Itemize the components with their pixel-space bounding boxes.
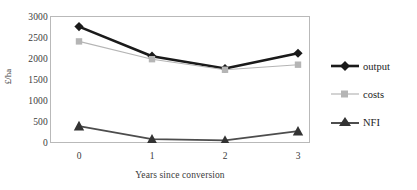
y-tick-label: 3000 xyxy=(2,13,48,23)
y-axis-title: £/ha xyxy=(4,57,13,97)
data-point-costs-2 xyxy=(222,67,228,73)
data-point-costs-1 xyxy=(149,56,155,62)
y-tick-label: 2500 xyxy=(2,34,48,44)
data-point-costs-3 xyxy=(295,61,301,67)
plot-series-canvas xyxy=(50,16,310,143)
legend-label-nfi: NFI xyxy=(360,117,380,128)
y-tick-label: 1000 xyxy=(2,97,48,107)
x-tick-label: 3 xyxy=(283,152,313,162)
series-line-costs xyxy=(79,41,298,69)
chart-figure: 3000 2500 2000 1500 1000 500 0 £/ha 0 1 … xyxy=(0,0,417,190)
legend-item-costs: costs xyxy=(330,86,417,102)
legend-label-output: output xyxy=(360,61,390,72)
y-tick-label: 0 xyxy=(2,139,48,149)
series-line-output xyxy=(79,27,298,69)
data-point-output-0 xyxy=(74,22,83,31)
data-point-output-3 xyxy=(293,49,302,58)
legend-item-output: output xyxy=(330,58,417,74)
caption-remnant xyxy=(0,0,417,6)
x-axis-title: Years since conversion xyxy=(50,171,310,181)
legend-key-diamond-icon xyxy=(330,59,360,73)
series-line-nfi xyxy=(79,126,298,140)
data-point-nfi-0 xyxy=(74,121,84,131)
legend-key-triangle-icon xyxy=(330,115,360,129)
y-tick-label: 500 xyxy=(2,118,48,128)
x-tick-label: 0 xyxy=(64,152,94,162)
legend-key-square-icon xyxy=(330,87,360,101)
data-point-costs-0 xyxy=(76,38,82,44)
x-tick-label: 2 xyxy=(210,152,240,162)
chart-legend: output costs NFI xyxy=(330,58,417,136)
legend-item-nfi: NFI xyxy=(330,114,417,130)
x-tick-label: 1 xyxy=(137,152,167,162)
legend-label-costs: costs xyxy=(360,89,384,100)
